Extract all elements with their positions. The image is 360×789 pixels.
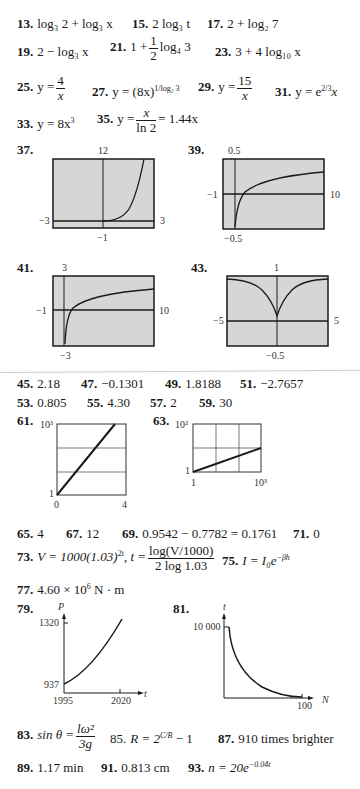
plot-37-xmax: 3: [160, 215, 165, 226]
plot-61-ymax: 10³: [40, 419, 53, 430]
answer-69: 69.0.9542 − 0.7782 = 0.1761: [122, 526, 277, 542]
answer-13: 13.log₃ 2 + log₃ x: [17, 16, 113, 32]
fraction: 15x: [237, 74, 252, 103]
answer-35: 35.y =xln 2= 1.44x: [97, 106, 198, 135]
answer-71: 71.0: [293, 526, 320, 542]
plot-81-xaxis-label: N: [322, 694, 329, 705]
plot-37-xmin: −3: [39, 215, 50, 226]
plot-63-xmin: 1: [191, 477, 196, 488]
plot-79-ymin: 937: [44, 679, 59, 690]
answer-73: 73.V = 1000(1.03)2t, t =log(V/1000)2 log…: [17, 544, 216, 573]
page-divider: [0, 370, 360, 373]
plot-79-xmax: 2020: [111, 695, 131, 706]
answer-43-label: 43.: [191, 260, 207, 276]
fraction: xln 2: [136, 106, 156, 135]
answer-51: 51.−2.7657: [240, 376, 303, 392]
plot-81-xmax: 100: [297, 700, 312, 711]
answer-75: 75.I = I₀e−βh: [222, 553, 290, 569]
plot-61-xmin: 0: [54, 499, 59, 510]
plot-37-graph: [53, 159, 155, 229]
plot-41-graph: [53, 276, 155, 347]
plot-43-xmin: −5: [213, 315, 224, 326]
answer-39-label: 39.: [188, 142, 204, 158]
fraction: 12: [149, 34, 158, 63]
answer-29: 29.y =15x: [198, 74, 254, 103]
plot-39-xmax: 10: [330, 189, 340, 200]
answer-61-label: 61.: [17, 413, 33, 429]
plot-39-ymin: −0.5: [224, 233, 242, 244]
plot-41-xmax: 10: [159, 305, 169, 316]
answer-83: 83.sin θ =lω²3g: [17, 722, 97, 751]
plot-63-ymax: 10²: [175, 419, 188, 430]
answer-67: 67.12: [66, 526, 99, 542]
plot-79-xaxis-label: t: [144, 688, 147, 699]
answer-49: 49.1.8188: [165, 376, 221, 392]
plot-43-ymax: 1: [274, 262, 279, 273]
plot-43-xmax: 5: [334, 315, 339, 326]
answer-47: 47.−0.1301: [81, 376, 144, 392]
answer-25: 25.y =4x: [17, 74, 67, 103]
answer-63-label: 63.: [153, 413, 169, 429]
plot-61-ymin: 1: [49, 488, 54, 499]
answer-19: 19.2 − log₃ x: [17, 44, 88, 60]
plot-79-ymax: 1320: [39, 617, 59, 628]
answer-23: 23.3 + 4 log₁₀ x: [215, 44, 301, 60]
plot-79-yaxis-label: P: [58, 601, 64, 612]
plot-81-yaxis-label: t: [223, 601, 226, 612]
answer-33: 33.y = 8x3: [17, 116, 75, 132]
plot-41-xmin: −1: [36, 305, 47, 316]
plot-81-ymax: 10 000: [193, 621, 221, 632]
answer-87: 87.910 times brighter: [218, 731, 334, 747]
fraction: 4x: [56, 74, 65, 103]
answer-93: 93.n = 20e−0.04t: [188, 760, 270, 776]
answer-31: 31.y = e2/3x: [275, 84, 337, 100]
answer-89: 89.1.17 min: [17, 760, 83, 776]
plot-81-graph: [222, 613, 317, 701]
plot-79-graph: [62, 613, 147, 695]
answer-53: 53.0.805: [17, 395, 67, 411]
plot-39-graph: [223, 159, 325, 230]
answer-91: 91.0.813 cm: [101, 760, 170, 776]
plot-63-ymin: 1: [185, 465, 190, 476]
answer-77: 77.4.60 × 106 N · m: [17, 582, 124, 598]
answer-37-label: 37.: [17, 142, 33, 158]
fraction: lω²3g: [76, 722, 95, 751]
plot-37-ymax: 12: [98, 145, 108, 156]
answer-27: 27.y = (8x)1/log₂ 3: [92, 84, 179, 100]
answer-45: 45.2.18: [17, 376, 60, 392]
answer-81-label: 81.: [173, 601, 189, 617]
plot-63-graph: [193, 424, 263, 473]
answer-15: 15.2 log₃ t: [132, 16, 190, 32]
answer-65: 65.4: [17, 526, 44, 542]
answer-17: 17.2 + log₂ 7: [207, 16, 278, 32]
plot-39-ymax: 0.5: [228, 145, 241, 156]
answer-57: 57.2: [150, 395, 177, 411]
answer-41-label: 41.: [17, 260, 33, 276]
answer-85: 85.R = 2C/B − 1: [110, 731, 193, 747]
plot-41-ymin: −3: [60, 350, 71, 361]
answer-59: 59.30: [199, 395, 232, 411]
plot-61-graph: [57, 424, 127, 496]
plot-37-ymin: −1: [97, 232, 108, 243]
plot-39-xmin: −1: [207, 189, 218, 200]
plot-63-xmax: 10³: [254, 477, 267, 488]
plot-41-ymax: 3: [62, 262, 67, 273]
plot-79-xmin: 1995: [53, 695, 73, 706]
answer-55: 55.4.30: [87, 395, 130, 411]
answer-21: 21.1 +12log₄ 3: [110, 34, 191, 63]
plot-61-xmax: 4: [122, 499, 127, 510]
plot-43-graph: [227, 276, 329, 347]
plot-43-ymin: −0.5: [266, 350, 284, 361]
fraction: log(V/1000)2 log 1.03: [148, 544, 214, 573]
answer-79-label: 79.: [17, 601, 33, 617]
